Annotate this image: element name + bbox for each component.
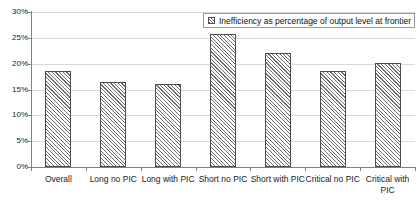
y-axis-tick-mark	[27, 167, 31, 168]
x-axis-tick-label: Short no PIC	[196, 174, 251, 185]
bar[interactable]	[45, 71, 71, 167]
bar-slot	[86, 12, 141, 167]
bar[interactable]	[375, 63, 401, 167]
hatched-square-swatch-icon	[208, 17, 215, 24]
x-axis-tick-mark	[360, 167, 361, 171]
bar-chart: 0%5%10%15%20%25%30% OverallLong no PICLo…	[0, 0, 420, 224]
bar-slot	[31, 12, 86, 167]
bar-slot	[196, 12, 251, 167]
x-axis-tick-mark	[86, 167, 87, 171]
y-axis-tick-label: 20%	[2, 60, 28, 68]
legend-label: Inefficiency as percentage of output lev…	[219, 16, 411, 26]
x-axis-tick-mark	[31, 167, 32, 171]
y-axis: 0%5%10%15%20%25%30%	[0, 12, 28, 167]
bar[interactable]	[100, 82, 126, 167]
x-axis-tick-mark	[141, 167, 142, 171]
y-axis-tick-label: 5%	[2, 137, 28, 145]
bar[interactable]	[265, 53, 291, 167]
y-axis-tick-label: 25%	[2, 34, 28, 42]
y-axis-tick-mark	[27, 90, 31, 91]
bar-slot	[305, 12, 360, 167]
bar-slot	[250, 12, 305, 167]
y-axis-tick-mark	[27, 38, 31, 39]
y-axis-tick-label: 10%	[2, 111, 28, 119]
x-axis-tick-label: Overall	[31, 174, 86, 185]
bar[interactable]	[155, 84, 181, 167]
chart-legend: Inefficiency as percentage of output lev…	[203, 13, 415, 28]
bars-layer	[31, 12, 415, 167]
x-axis-tick-mark	[305, 167, 306, 171]
x-axis-tick-label: Long with PIC	[141, 174, 196, 185]
bar[interactable]	[320, 71, 346, 167]
x-axis-tick-label: Critical no PIC	[305, 174, 360, 185]
x-axis: OverallLong no PICLong with PICShort no …	[31, 171, 415, 221]
x-axis-tick-label: Short with PIC	[250, 174, 305, 185]
x-axis-tick-mark	[415, 167, 416, 171]
bar-slot	[141, 12, 196, 167]
x-axis-tick-label: Long no PIC	[86, 174, 141, 185]
x-axis-tick-mark	[250, 167, 251, 171]
y-axis-tick-mark	[27, 64, 31, 65]
y-axis-tick-label: 15%	[2, 86, 28, 94]
bar[interactable]	[210, 34, 236, 167]
y-axis-tick-mark	[27, 115, 31, 116]
x-axis-tick-mark	[196, 167, 197, 171]
bar-slot	[360, 12, 415, 167]
y-axis-tick-label: 30%	[2, 8, 28, 16]
x-axis-line	[31, 167, 415, 168]
x-axis-tick-label: Critical with PIC	[360, 174, 415, 196]
y-axis-tick-mark	[27, 12, 31, 13]
y-axis-tick-mark	[27, 141, 31, 142]
y-axis-tick-label: 0%	[2, 163, 28, 171]
